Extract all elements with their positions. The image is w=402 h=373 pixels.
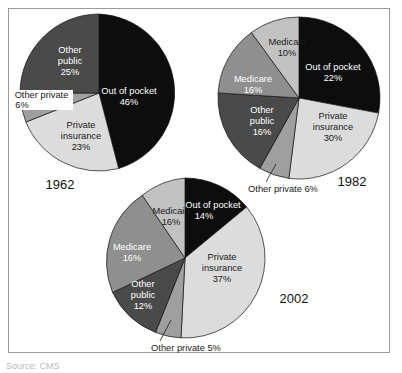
slice-value-1982-other-public: 16%	[253, 127, 272, 137]
slice-label-1962-other-private: Other private	[15, 90, 69, 100]
slice-label-1962-private-insurance-l2: insurance	[61, 131, 101, 141]
slice-label-2002-other-public-l2: public	[131, 290, 156, 300]
slice-value-2002-medicaid: 16%	[162, 217, 181, 227]
pie-chart-1962: Out of pocket 46% Private insurance 23% …	[10, 14, 175, 192]
slice-value-2002-other-public: 12%	[134, 301, 153, 311]
slice-label-1982-out-of-pocket: Out of pocket	[305, 62, 361, 72]
slice-label-2002-medicare: Medicare	[113, 242, 151, 252]
slice-value-2002-private-insurance: 37%	[213, 274, 232, 284]
slice-value-1982-medicare: 16%	[244, 85, 263, 95]
slice-label-2002-medicaid: Medicaid	[152, 206, 189, 216]
slice-label-1982-other-public-l1: Other	[250, 105, 273, 115]
slice-label-1962-private-insurance-l1: Private	[67, 120, 96, 130]
slice-label-2002-private-insurance-l2: insurance	[202, 263, 242, 273]
slice-label-1962-other-public-l2: public	[58, 56, 83, 66]
slice-label-2002-other-public-l1: Other	[131, 279, 154, 289]
slice-value-1962-other-private: 6%	[15, 100, 28, 110]
slice-value-1982-out-of-pocket: 22%	[324, 73, 343, 83]
slice-value-1962-private-insurance: 23%	[72, 142, 91, 152]
year-label-2002: 2002	[280, 291, 309, 306]
callout-2002-other-private: Other private 5%	[151, 343, 221, 353]
slice-value-1962-out-of-pocket: 46%	[120, 97, 139, 107]
slice-label-2002-out-of-pocket: Out of pocket	[185, 200, 241, 210]
year-label-1962: 1962	[46, 177, 75, 192]
pie-chart-1982: Out of pocket 22% Private insurance 30% …	[218, 17, 380, 194]
source-note: Source: CMS	[6, 362, 126, 372]
slice-label-1982-private-insurance-l2: insurance	[313, 122, 353, 132]
slice-label-1982-private-insurance-l1: Private	[319, 111, 348, 121]
slice-label-1982-other-public-l2: public	[250, 116, 275, 126]
slice-value-1982-private-insurance: 30%	[324, 133, 343, 143]
slice-value-1962-other-public: 25%	[61, 67, 80, 77]
slice-label-1982-medicaid: Medicaid	[268, 37, 305, 47]
callout-1982-other-private: Other private 6%	[248, 184, 318, 194]
slice-label-2002-private-insurance-l1: Private	[208, 252, 237, 262]
slice-value-1982-medicaid: 10%	[278, 48, 297, 58]
year-label-1982: 1982	[338, 174, 367, 189]
pie-chart-2002: Out of pocket 14% Private insurance 37% …	[106, 178, 308, 353]
pie-charts-figure: Out of pocket 46% Private insurance 23% …	[0, 0, 402, 373]
slice-value-2002-medicare: 16%	[123, 253, 142, 263]
slice-label-1962-other-public-l1: Other	[58, 45, 81, 55]
slice-value-2002-out-of-pocket: 14%	[195, 211, 214, 221]
slice-label-1962-out-of-pocket: Out of pocket	[101, 86, 157, 96]
slice-label-1982-medicare: Medicare	[234, 74, 272, 84]
